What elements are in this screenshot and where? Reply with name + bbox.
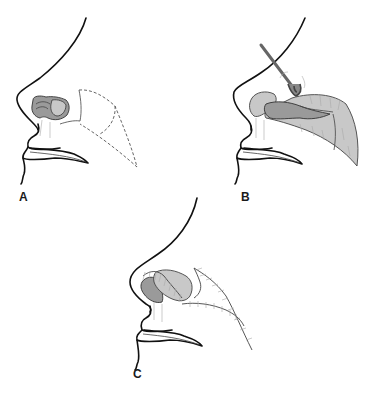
panel-b-hook-fork [288,84,301,96]
illustration-svg [0,0,376,395]
panel-b-drawing [234,18,358,184]
panel-c-suture-donor-lower [182,303,244,326]
panel-b-upper-lip [241,126,272,150]
panel-a-drawing [17,18,137,184]
panel-c-lips [137,330,202,346]
panel-b-lips [237,148,302,164]
panel-c-drawing [130,198,252,370]
panel-c-chin [135,340,139,370]
panel-a-flap-outline [79,90,137,167]
panel-b-chin [235,158,239,184]
panel-label-a: A [19,191,28,203]
panel-c-upper-lip [141,306,172,332]
panel-a-chin [21,158,25,184]
panel-label-b: B [241,191,250,203]
panel-b-skin-hook-icon [261,45,292,86]
panel-a-upper-lip [28,124,60,149]
panel-label-c: C [133,368,142,380]
surgical-figure: A B C [0,0,376,395]
